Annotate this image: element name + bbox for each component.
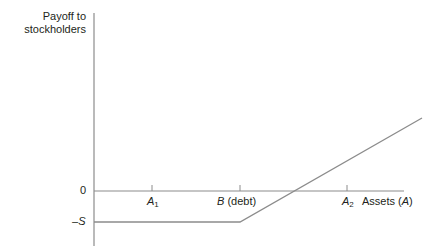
chart-canvas	[0, 0, 441, 248]
x-label-close: )	[409, 195, 413, 207]
s-variable: S	[78, 215, 85, 227]
x-tick-a1: A1	[147, 195, 159, 211]
a2-sub: 2	[349, 200, 353, 209]
y-tick-neg-s: –S	[72, 215, 85, 228]
y-axis-label-line2: stockholders	[24, 23, 86, 36]
x-label-var: A	[402, 195, 409, 207]
y-axis-label: Payoff to stockholders	[24, 10, 86, 36]
x-label-text: Assets (	[362, 195, 402, 207]
a1-sub: 1	[154, 200, 158, 209]
x-tick-b: B (debt)	[217, 195, 256, 208]
b-text: (debt)	[224, 195, 256, 207]
y-axis-label-line1: Payoff to	[24, 10, 86, 23]
x-axis-label: Assets (A)	[362, 195, 413, 208]
x-tick-a2: A2	[342, 195, 354, 211]
y-tick-zero: 0	[80, 184, 86, 197]
